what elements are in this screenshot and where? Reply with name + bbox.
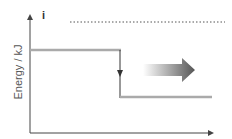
x-axis	[30, 130, 214, 136]
y-axis	[27, 14, 33, 133]
energy-diagram	[0, 0, 232, 139]
transition-arrow	[117, 50, 123, 98]
top-label: i	[42, 9, 45, 21]
y-axis-label: Energy / kJ	[12, 40, 24, 104]
direction-arrow-icon	[143, 58, 195, 82]
